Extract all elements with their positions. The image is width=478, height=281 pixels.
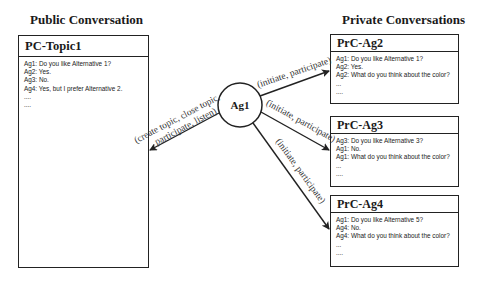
- edge-label-prc-ag2: (initiate, participate): [256, 55, 333, 91]
- agent-node-label: Ag1: [231, 99, 250, 111]
- edge-label-prc-ag3: (initiate, participate): [264, 98, 337, 145]
- arrow-to-prc-ag4: [253, 123, 329, 229]
- edge-label-prc-ag4: (initiate, participate): [273, 137, 327, 206]
- agent-diagram: Ag1 (create topic, close topic, particip…: [0, 0, 478, 281]
